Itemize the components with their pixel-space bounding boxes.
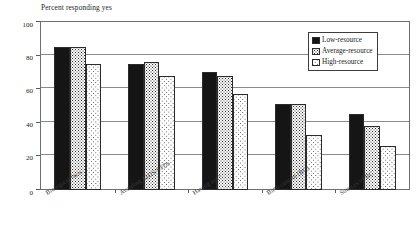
bar-group-1	[115, 22, 189, 190]
chart-legend: Low-resourceAverage-resourceHigh-resourc…	[308, 32, 378, 71]
legend-item-1[interactable]: Average-resource	[312, 46, 373, 57]
legend-swatch-icon-2	[312, 59, 320, 66]
bar-1-0	[128, 64, 144, 190]
y-tick-label-60: 60	[26, 88, 33, 89]
bar-4-1	[364, 126, 380, 190]
y-tick-label-100: 100	[23, 21, 34, 22]
bar-3-2	[306, 135, 322, 190]
bar-4-2	[380, 146, 396, 190]
bar-chart-figure: Percent responding yes 020406080100 Biol…	[0, 0, 416, 251]
bar-0-2	[86, 64, 102, 190]
x-axis-labels: Biological factsAvoiding AIDS/STDsHaving…	[0, 190, 416, 251]
legend-item-2[interactable]: High-resource	[312, 57, 373, 68]
legend-swatch-icon-0	[312, 37, 320, 44]
y-tick-label-40: 40	[26, 121, 33, 122]
legend-label-1: Average-resource	[322, 48, 373, 55]
y-tick-label-20: 20	[26, 155, 33, 156]
bar-group-2	[188, 22, 262, 190]
legend-label-0: Low-resource	[322, 37, 362, 44]
bar-2-2	[233, 94, 249, 190]
bar-0-0	[54, 47, 70, 190]
y-tick-label-80: 80	[26, 54, 33, 55]
y-axis-title: Percent responding yes	[41, 3, 112, 12]
y-axis: 020406080100	[0, 21, 40, 190]
bar-1-2	[159, 76, 175, 190]
bar-group-0	[41, 22, 115, 190]
legend-swatch-icon-1	[312, 48, 320, 55]
legend-item-0[interactable]: Low-resource	[312, 35, 373, 46]
bar-2-0	[202, 72, 218, 190]
legend-label-2: High-resource	[322, 59, 363, 66]
